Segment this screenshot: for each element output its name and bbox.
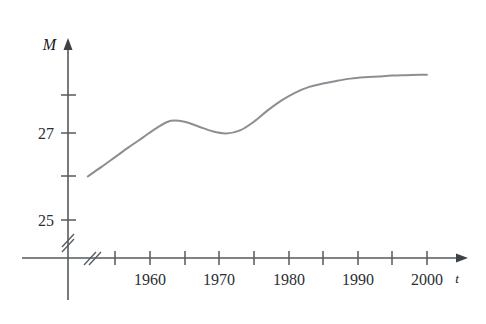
x-axis-arrow-icon xyxy=(456,254,468,263)
x-axis-label-t: t xyxy=(455,271,459,286)
axis-group xyxy=(22,38,468,300)
y-axis-label-M: M xyxy=(42,36,58,53)
y-tick-labels: 27 25 xyxy=(38,125,54,229)
axis-name-labels: M t xyxy=(42,36,460,286)
x-tick-labels: 1960 1970 1980 1990 2000 xyxy=(134,271,443,288)
chart-figure: 27 25 1960 1970 1980 1990 2000 M t xyxy=(0,0,486,324)
y-tick-label-27: 27 xyxy=(38,125,54,142)
line-chart-canvas: 27 25 1960 1970 1980 1990 2000 M t xyxy=(0,0,486,324)
x-tick-label-1970: 1970 xyxy=(203,271,235,288)
x-tick-label-1960: 1960 xyxy=(134,271,166,288)
x-tick-label-1980: 1980 xyxy=(273,271,305,288)
data-series-group xyxy=(88,75,427,177)
y-tick-label-25: 25 xyxy=(38,212,54,229)
x-tick-label-1990: 1990 xyxy=(342,271,374,288)
x-tick-label-2000: 2000 xyxy=(411,271,443,288)
y-axis-arrow-icon xyxy=(64,38,73,50)
data-curve-M xyxy=(88,75,427,177)
